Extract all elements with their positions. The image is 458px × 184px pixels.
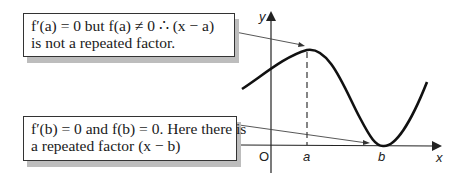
- leader-line-b: [225, 123, 367, 143]
- note-line: f′(b) = 0 and f(b) = 0. Here there is: [31, 120, 229, 137]
- x-axis-label: x: [435, 150, 443, 165]
- origin-label: O: [259, 149, 269, 164]
- leader-arrow-b-icon: [363, 140, 370, 145]
- y-axis-arrow-icon: [266, 11, 276, 21]
- leader-line-a: [225, 30, 302, 45]
- x-axis: [240, 145, 436, 146]
- point-label-a: a: [303, 149, 310, 164]
- leader-arrow-a-icon: [298, 42, 305, 47]
- note-line: a repeated factor (x − b): [31, 137, 229, 154]
- point-label-b: b: [378, 149, 385, 164]
- note-line: f′(a) = 0 but f(a) ≠ 0 ∴ (x − a): [31, 17, 227, 34]
- max-point-note: f′(a) = 0 but f(a) ≠ 0 ∴ (x − a) is not …: [23, 13, 235, 57]
- y-axis-label: y: [258, 9, 267, 24]
- note-line: is not a repeated factor.: [31, 34, 227, 51]
- repeated-root-note: f′(b) = 0 and f(b) = 0. Here there is a …: [23, 116, 237, 161]
- curve: [242, 50, 427, 146]
